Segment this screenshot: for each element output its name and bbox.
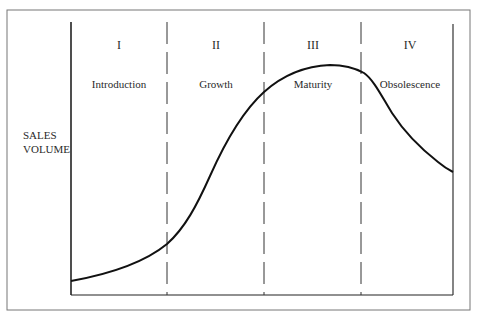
stage-4-name: Obsolescence: [380, 78, 440, 90]
stage-1-numeral: I: [117, 38, 121, 53]
stage-2-numeral: II: [212, 38, 220, 53]
stage-2-name: Growth: [199, 78, 233, 90]
y-axis-label: SALES VOLUME: [23, 128, 70, 156]
stage-4-numeral: IV: [404, 38, 417, 53]
stage-1-name: Introduction: [92, 78, 146, 90]
y-axis-label-line1: SALES: [23, 128, 70, 142]
stage-3-numeral: III: [307, 38, 319, 53]
stage-3-name: Maturity: [294, 78, 333, 90]
sales-curve: [71, 65, 453, 281]
y-axis-label-line2: VOLUME: [23, 142, 70, 156]
outer-frame: [7, 10, 470, 310]
